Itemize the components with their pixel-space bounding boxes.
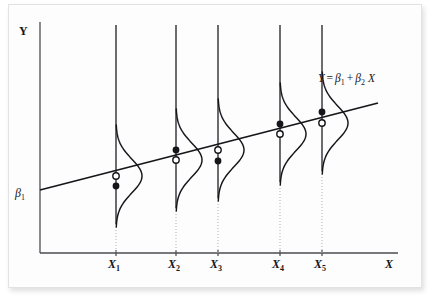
x-tick-subscript-X2: 2 [176, 264, 180, 273]
x-axis-label: X [385, 258, 393, 270]
observed-point-X4 [277, 121, 284, 128]
x-tick-letter-X4: X [272, 257, 280, 271]
observed-point-X3 [215, 158, 222, 165]
density-curve-X3 [218, 99, 244, 201]
equation-x-term: X [368, 72, 375, 84]
x-tick-subscript-X5: 5 [322, 264, 326, 273]
data-markers-group [113, 109, 326, 190]
conditional-mean-point-X5 [319, 120, 325, 126]
x-tick-subscript-X1: 1 [116, 264, 120, 273]
conditional-mean-point-X4 [277, 131, 283, 137]
observed-point-X2 [173, 147, 180, 154]
x-tick-label-X4: X4 [272, 258, 284, 273]
conditional-mean-point-X1 [113, 173, 119, 179]
x-tick-letter-X5: X [314, 257, 322, 271]
axis-group [40, 22, 398, 256]
regression-line-group [40, 103, 378, 190]
intercept-label: β1 [15, 187, 25, 202]
x-tick-label-X5: X5 [314, 258, 326, 273]
x-tick-letter-X3: X [210, 257, 218, 271]
density-curve-X2 [176, 109, 202, 211]
x-tick-label-X1: X1 [108, 258, 120, 273]
regression-line [40, 103, 378, 190]
density-curve-X5 [322, 72, 348, 174]
x-tick-label-X2: X2 [168, 258, 180, 273]
density-curves-group [116, 72, 348, 227]
x-tick-label-X3: X3 [210, 258, 222, 273]
intercept-subscript: 1 [21, 193, 25, 202]
y-axis-label: Y [19, 25, 28, 37]
equation-beta2-subscript: 2 [361, 78, 365, 87]
x-tick-subscript-X3: 3 [218, 264, 222, 273]
density-curve-X4 [280, 83, 306, 185]
equation-plus: + [347, 72, 354, 84]
observed-point-X1 [113, 183, 120, 190]
regression-figure: Y X β1 Y=β1+β2X X1X2X3X4X5 [0, 0, 432, 302]
vertical-lines-group [116, 25, 322, 253]
conditional-mean-point-X3 [215, 147, 221, 153]
conditional-mean-point-X2 [173, 157, 179, 163]
density-curve-X1 [116, 125, 142, 227]
equation-equals: = [326, 72, 333, 84]
x-tick-subscript-X4: 4 [280, 264, 284, 273]
observed-point-X5 [319, 109, 326, 116]
equation-y-term: Y [318, 72, 324, 84]
x-tick-letter-X1: X [108, 257, 116, 271]
regression-equation-label: Y=β1+β2X [318, 73, 375, 87]
x-tick-letter-X2: X [168, 257, 176, 271]
equation-beta1-subscript: 1 [341, 78, 345, 87]
